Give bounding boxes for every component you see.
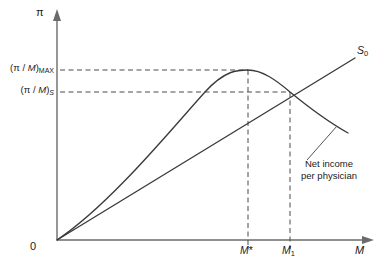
x-axis	[57, 236, 374, 244]
zero-subscript: 0	[364, 49, 368, 58]
x-tick-label-m-one: M1	[282, 245, 295, 256]
y-tick-label-pi-max: (π / M)MAX	[0, 63, 54, 73]
s-subscript: S	[49, 89, 54, 96]
annotation-line-2: per physician	[288, 170, 370, 182]
economics-diagram: π M 0 (π / M)MAX (π / M)S M* M1 S0 Net i…	[0, 0, 385, 271]
supply-ray-s0	[57, 58, 355, 240]
x-tick-label-m-star: M*	[240, 245, 253, 256]
y-axis-title: π	[36, 7, 44, 19]
max-subscript: MAX	[39, 67, 54, 74]
net-income-annotation: Net income per physician	[288, 158, 370, 182]
annotation-leader-line	[307, 126, 337, 160]
x-axis-title: M	[355, 245, 364, 257]
plot-area	[0, 0, 385, 271]
m-star-base: M	[240, 244, 249, 256]
origin-label: 0	[30, 241, 36, 253]
supply-curve-label: S0	[357, 45, 368, 56]
net-income-curve	[57, 70, 348, 240]
slash: /	[20, 62, 28, 73]
m-symbol-s: M	[38, 84, 46, 95]
m-symbol: M	[28, 62, 36, 73]
s-base: S	[357, 44, 364, 56]
asterisk: *	[249, 244, 253, 256]
y-tick-label-pi-s: (π / M)S	[0, 85, 54, 95]
m-one-base: M	[282, 244, 291, 256]
annotation-line-1: Net income	[288, 158, 370, 170]
one-subscript: 1	[291, 249, 295, 258]
y-axis	[53, 9, 61, 240]
